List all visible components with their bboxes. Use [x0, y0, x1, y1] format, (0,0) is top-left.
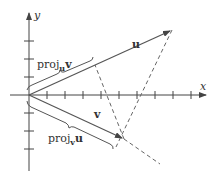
projection-diagram: y x u v projuv projvu: [0, 0, 216, 179]
proj-v-u-label: projvu: [48, 132, 83, 147]
axes: [10, 13, 206, 171]
vector-v-label: v: [93, 108, 101, 121]
proj-u-v-label: projuv: [37, 58, 72, 73]
x-axis-label: x: [200, 80, 207, 93]
u-tip-perpendicular: [116, 30, 172, 147]
y-axis-label: y: [33, 9, 41, 22]
v-extension: [124, 139, 160, 164]
vector-u-label: u: [132, 38, 140, 51]
vectors: [29, 31, 170, 138]
